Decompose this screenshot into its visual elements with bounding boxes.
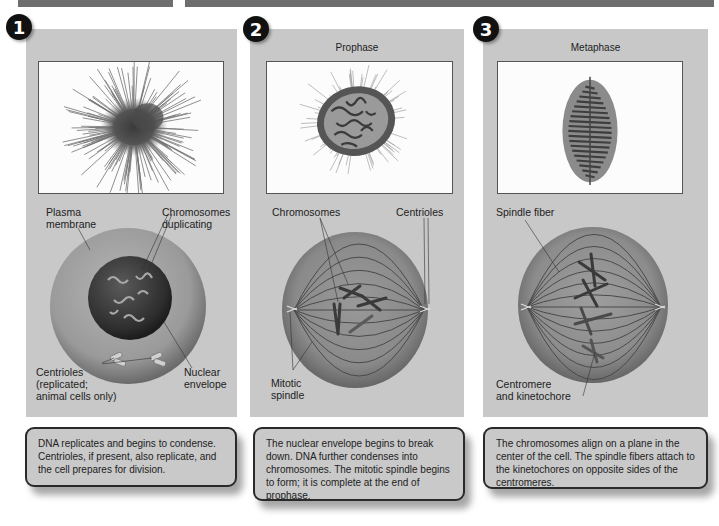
- metaphase-micrograph: [497, 61, 683, 194]
- header-bar-left: [18, 0, 173, 7]
- prophase-micrograph: [266, 61, 453, 194]
- cell-projection: [380, 144, 398, 161]
- stage-2-description: The nuclear envelope begins to break dow…: [253, 427, 465, 501]
- cell-projection: [364, 65, 369, 88]
- stage-3-description: The chromosomes align on a plane in the …: [483, 427, 708, 489]
- label-centrioles: Centrioles (replicated; animal cells onl…: [36, 366, 117, 402]
- header-bar-right: [185, 0, 714, 7]
- stage-3-number-badge: 3: [473, 16, 499, 42]
- label-centrioles-prophase: Centrioles: [396, 206, 443, 218]
- cell-projection: [330, 151, 340, 171]
- cell-projection: [348, 154, 351, 174]
- interphase-micrograph-image: [39, 62, 223, 193]
- stage-3-title: Metaphase: [483, 42, 708, 53]
- label-plasma-membrane: Plasma membrane: [46, 206, 96, 230]
- cell-projection: [373, 70, 387, 93]
- label-nuclear-envelope: Nuclear envelope: [184, 366, 227, 390]
- stage-2-title: Prophase: [250, 42, 464, 53]
- label-chromosomes: Chromosomes: [272, 206, 340, 218]
- cell-projection: [308, 84, 329, 101]
- cell-projection: [331, 72, 341, 92]
- stage-2-number-badge: 2: [243, 16, 269, 42]
- cell-projection: [333, 85, 338, 93]
- cell-projection: [369, 152, 374, 163]
- label-centromere-kinetochore: Centromere and kinetochore: [496, 378, 571, 402]
- cell-projection: [353, 71, 354, 88]
- label-spindle-fiber: Spindle fiber: [496, 206, 554, 218]
- prophase-micrograph-image: [267, 62, 452, 193]
- stage-1-number-badge: 1: [6, 14, 32, 40]
- interphase-micrograph: [38, 61, 224, 194]
- label-mitotic-spindle: Mitotic spindle: [271, 377, 304, 401]
- metaphase-micrograph-image: [498, 62, 682, 193]
- label-chromosomes-duplicating: Chromosomes duplicating: [162, 206, 230, 230]
- stage-1-description: DNA replicates and begins to condense. C…: [25, 427, 237, 487]
